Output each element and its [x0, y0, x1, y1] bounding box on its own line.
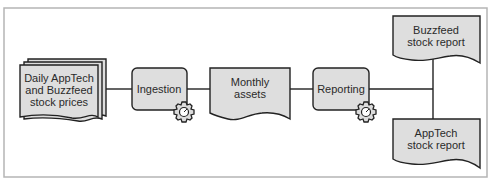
gear-icon — [174, 102, 194, 122]
node-apptech-report-label-2: stock report — [407, 139, 464, 151]
node-ingestion-label: Ingestion — [137, 83, 182, 95]
node-daily-prices-label-3: stock prices — [30, 96, 89, 108]
node-daily-prices-label-1: Daily AppTech — [24, 72, 94, 84]
node-apptech-report-label-1: AppTech — [415, 127, 458, 139]
node-buzzfeed-report-label-1: Buzzfeed — [413, 24, 459, 36]
node-daily-prices-label-2: and Buzzfeed — [25, 84, 92, 96]
gear-icon — [356, 102, 376, 122]
node-daily-prices[interactable]: Daily AppTech and Buzzfeed stock prices — [20, 59, 106, 121]
node-monthly-assets-label-1: Monthly — [231, 76, 270, 88]
node-monthly-assets[interactable]: Monthly assets — [210, 68, 290, 120]
node-apptech-report[interactable]: AppTech stock report — [393, 119, 480, 168]
node-buzzfeed-report[interactable]: Buzzfeed stock report — [393, 16, 480, 63]
node-monthly-assets-label-2: assets — [234, 88, 266, 100]
node-reporting-label: Reporting — [317, 83, 365, 95]
node-buzzfeed-report-label-2: stock report — [407, 36, 464, 48]
pipeline-diagram: Daily AppTech and Buzzfeed stock prices … — [0, 0, 491, 182]
